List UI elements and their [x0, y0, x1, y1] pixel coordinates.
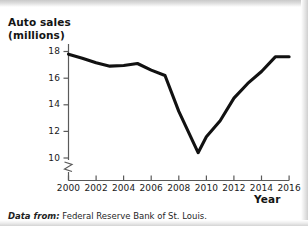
data-series-line	[69, 54, 290, 153]
x-tick-label-2000: 2000	[54, 183, 84, 193]
y-axis-title: Auto sales (millions)	[8, 16, 71, 42]
x-tick-label-2012: 2012	[219, 183, 249, 193]
y-tick-label-12: 12	[38, 126, 60, 136]
x-axis-title: Year	[254, 193, 280, 206]
y-tick-label-10: 10	[38, 153, 60, 163]
y-axis-ticks	[64, 52, 69, 159]
source-note: Data from: Federal Reserve Bank of St. L…	[8, 211, 207, 221]
x-tick-label-2004: 2004	[109, 183, 139, 193]
y-tick-label-16: 16	[38, 73, 60, 83]
x-axis-ticks	[69, 176, 290, 181]
x-tick-label-2002: 2002	[81, 183, 111, 193]
source-note-body: Federal Reserve Bank of St. Louis.	[62, 211, 207, 221]
y-tick-label-14: 14	[38, 99, 60, 109]
x-tick-label-2010: 2010	[191, 183, 221, 193]
source-note-lead: Data from:	[8, 211, 60, 221]
x-tick-label-2008: 2008	[164, 183, 194, 193]
y-tick-label-18: 18	[38, 46, 60, 56]
x-tick-label-2016: 2016	[274, 183, 304, 193]
x-tick-label-2014: 2014	[247, 183, 277, 193]
chart-figure: Auto sales (millions) Year 18 16 14 12 1…	[0, 0, 308, 226]
y-axis-break-icon	[65, 162, 73, 172]
x-tick-label-2006: 2006	[136, 183, 166, 193]
